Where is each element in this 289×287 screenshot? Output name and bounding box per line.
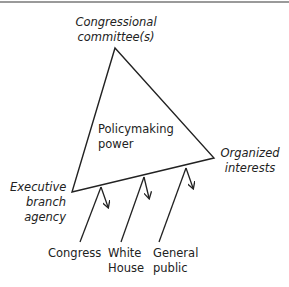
label-line: power — [98, 137, 174, 152]
label-congress: Congress — [48, 246, 101, 261]
label-line: branch — [10, 195, 66, 210]
label-line: Executive — [10, 180, 66, 195]
label-policymaking-power: Policymaking power — [98, 122, 174, 152]
label-line: General — [153, 246, 198, 261]
label-line: White — [108, 246, 144, 261]
label-line: Policymaking — [98, 122, 174, 137]
label-line: agency — [10, 210, 66, 225]
congress-line — [80, 187, 101, 242]
label-line: Organized — [218, 146, 282, 161]
congress-arrow-icon — [101, 187, 108, 207]
white-house-arrow-icon — [144, 177, 149, 198]
white-house-line — [121, 177, 144, 242]
policymaking-triangle — [72, 48, 214, 192]
label-white-house: White House — [108, 246, 144, 276]
label-line: Congress — [48, 246, 101, 261]
label-organized-interests: Organized interests — [218, 146, 282, 176]
label-line: committee(s) — [70, 30, 162, 45]
label-congressional-committees: Congressional committee(s) — [70, 15, 162, 45]
label-line: House — [108, 261, 144, 276]
label-executive-branch-agency: Executive branch agency — [10, 180, 66, 225]
label-line: interests — [218, 161, 282, 176]
label-general-public: General public — [153, 246, 198, 276]
label-line: public — [153, 261, 198, 276]
label-line: Congressional — [70, 15, 162, 30]
general-public-arrow-icon — [186, 168, 193, 188]
general-public-line — [159, 168, 186, 242]
